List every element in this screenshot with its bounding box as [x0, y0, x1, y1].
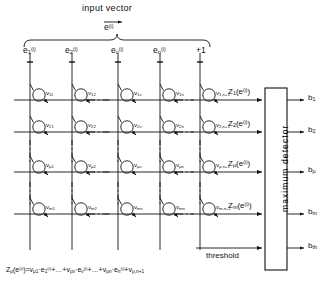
figure-title: input vector	[82, 4, 132, 13]
weight-sub: μ2	[91, 164, 96, 169]
eq-ellipsis: …	[92, 266, 99, 273]
activation-label-m: Zm(e(i))	[228, 202, 252, 211]
output-label-mu: bμ	[308, 166, 316, 175]
output-label-1: b1	[308, 94, 315, 103]
weight-label-mu-1: vμ1	[46, 162, 54, 169]
weight-label-1-1: v11	[46, 90, 53, 97]
weight-sub: mν	[137, 206, 143, 211]
activation-equation: Zμ(e(i))=vμ1·e1(i)+…+vμν·eν(i)+…+vμn·en(…	[6, 266, 144, 275]
output-sub: th	[312, 244, 317, 250]
input-label-2: e2(i)	[65, 46, 78, 56]
weight-sub: μn	[179, 164, 184, 169]
output-label-threshold: bth	[308, 242, 317, 251]
maximum-detector-label: maximum detector	[280, 124, 290, 212]
figure-lines	[0, 0, 324, 294]
weight-sub: 12	[91, 92, 96, 97]
z-close: )	[249, 201, 252, 210]
weight-sub: 2ν	[137, 124, 141, 129]
input-sup-nu: (i)	[119, 46, 124, 52]
weight-label-1-nu: v1ν	[134, 90, 142, 97]
weight-label-mu-nu: vμν	[134, 162, 142, 169]
weight-label-2-1: v21	[46, 122, 54, 129]
weight-sub: 1n	[179, 92, 184, 97]
activation-label-1: Z1(e(i))	[228, 88, 250, 97]
input-label-n: en(i)	[153, 46, 166, 56]
output-label-m: bm	[308, 208, 317, 217]
z-close: )	[248, 159, 251, 168]
z-close: )	[247, 87, 250, 96]
output-sub: μ	[312, 168, 315, 174]
weight-label-m-n: vmn	[176, 204, 185, 211]
input-label-nu: eν(i)	[111, 46, 123, 56]
input-label-bias: +1	[196, 46, 206, 55]
z-arg: (e	[236, 87, 243, 96]
output-label-2: b2	[308, 126, 315, 135]
input-label-1: e1(i)	[23, 46, 36, 56]
weight-label-mu-n: vμn	[176, 162, 184, 169]
z-arg: (e	[236, 119, 243, 128]
weight-label-1-2: v12	[88, 90, 96, 97]
weight-label-1-n: v1n	[176, 90, 184, 97]
weight-sub: m2	[91, 206, 97, 211]
weight-sub: 1ν	[137, 92, 141, 97]
output-sub: 2	[312, 128, 315, 134]
input-vector-sup: (i)	[109, 23, 114, 29]
weight-sub: m1	[49, 206, 55, 211]
weight-sub: μ1	[49, 164, 54, 169]
input-sup-1: (i)	[31, 46, 36, 52]
weight-label-mu-2: vμ2	[88, 162, 96, 169]
weight-sub: 11	[49, 92, 53, 97]
threshold-label: threshold	[206, 252, 239, 260]
output-sub: m	[312, 210, 317, 216]
weight-sub: 21	[49, 124, 54, 129]
weight-sub: mn	[179, 206, 185, 211]
weight-label-m-1: vm1	[46, 204, 55, 211]
input-sup-n: (i)	[161, 46, 166, 52]
z-arg: (e	[237, 201, 244, 210]
weight-label-2-nu: v2ν	[134, 122, 142, 129]
z-close: )	[247, 119, 250, 128]
weight-label-m-nu: vmν	[134, 204, 143, 211]
activation-label-2: Z2(e(i))	[228, 120, 250, 129]
weight-label-m-2: vm2	[88, 204, 97, 211]
weight-label-2-2: v22	[88, 122, 96, 129]
weight-sub: μν	[137, 164, 142, 169]
input-sup-2: (i)	[73, 46, 78, 52]
weight-sub: 2n	[179, 124, 184, 129]
eq-w-sub: μ,n+1	[132, 269, 144, 274]
neural-network-figure: input vector e(i) e1(i) e2(i) eν(i) en(i…	[0, 0, 324, 294]
weight-label-2-n: v2n	[176, 122, 184, 129]
output-sub: 1	[312, 96, 315, 102]
activation-label-mu: Zμ(e(i))	[228, 160, 250, 169]
input-vector-symbol: e(i)	[104, 23, 113, 32]
weight-sub: 22	[91, 124, 96, 129]
